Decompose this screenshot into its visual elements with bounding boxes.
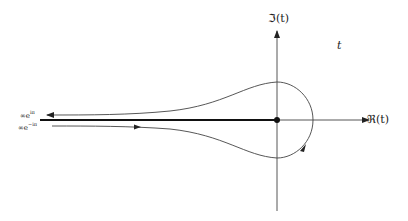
upper-tail-exponent: iπ bbox=[30, 109, 35, 115]
upper-tail-base: ∞e bbox=[20, 112, 30, 120]
lower-tail-label: ∞e−iπ bbox=[18, 123, 37, 132]
contour-upper-branch bbox=[47, 82, 277, 115]
lower-tail-base: ∞e bbox=[18, 124, 28, 132]
diagram-graphics bbox=[0, 0, 408, 221]
imaginary-axis-label: ℑ(t) bbox=[268, 13, 289, 24]
hankel-contour-diagram: ℑ(t) ℜ(t) t ∞eiπ ∞e−iπ bbox=[0, 0, 408, 221]
upper-tail-label: ∞eiπ bbox=[20, 111, 35, 120]
contour-lower-branch bbox=[52, 126, 277, 158]
real-axis-label: ℜ(t) bbox=[367, 114, 389, 125]
plane-label: t bbox=[337, 40, 341, 51]
lower-branch-arrow-icon bbox=[134, 125, 141, 130]
origin-point bbox=[274, 117, 280, 123]
lower-tail-exponent: −iπ bbox=[28, 121, 37, 127]
